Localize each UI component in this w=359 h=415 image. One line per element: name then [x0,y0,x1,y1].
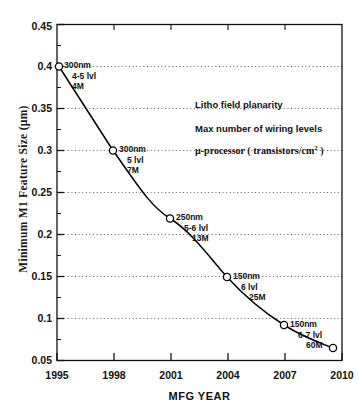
point-label-levels: 5-6 lvl [176,223,209,234]
point-label-density: 4M [64,81,96,92]
annotation-microprocessor: µ-processor ( transistors/cm2 ) [195,144,324,156]
point-label-levels: 5 lvl [119,155,146,166]
point-label-density: 7M [119,165,146,176]
point-label-levels: 4-5 lvl [64,71,96,82]
annotation-litho-field-planarity: Litho field planarity [195,99,283,110]
data-point-1995 [55,63,62,70]
x-major-ticks [57,353,342,361]
point-label-node: 300nm [119,144,146,155]
point-label-1998: 300nm 5 lvl 7M [119,144,146,176]
x-top-ticks [114,25,285,31]
point-label-node: 250nm [176,212,209,223]
annotation-microprocessor-prefix: µ-processor ( transistors/cm [195,145,314,156]
plot-canvas [0,0,359,415]
point-label-node: 150nm [233,271,266,282]
data-point-2007 [280,321,287,328]
point-label-density: 25M [233,292,266,303]
data-point-1998 [109,147,116,154]
point-label-density: 13M [176,233,209,244]
chart-figure: Minimum M1 Feature Size (µm) 0.45 0.4 0.… [0,0,359,415]
point-label-node: 150nm [290,319,323,330]
point-label-2001: 250nm 5-6 lvl 13M [176,212,209,244]
point-label-2004: 150nm 6 lvl 25M [233,271,266,303]
point-label-1995: 300nm 4-5 lvl 4M [64,60,96,92]
annotation-microprocessor-suffix: ) [318,145,324,156]
annotation-max-wiring-levels: Max number of wiring levels [195,123,322,134]
y-major-ticks [57,25,64,361]
point-label-levels: 6-7 lvl [290,330,323,341]
data-point-2001 [166,215,173,222]
data-point-2010 [329,344,336,351]
data-point-2004 [223,273,230,280]
point-label-node: 300nm [64,60,96,71]
point-label-2007: 150nm 6-7 lvl 60M [290,319,323,351]
plot-frame [57,25,342,361]
point-label-density: 60M [290,340,323,351]
point-label-levels: 6 lvl [233,282,266,293]
